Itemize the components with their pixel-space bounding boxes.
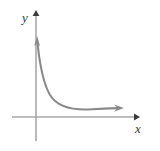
decay-curve-path (38, 44, 117, 110)
exponential-decay-figure: y x (0, 0, 160, 151)
y-axis-arrowhead-icon (33, 10, 40, 16)
y-axis-label: y (20, 10, 28, 25)
x-axis-arrowhead-icon (134, 114, 140, 121)
figure-canvas: y x (0, 0, 160, 151)
x-axis-label: x (134, 121, 141, 136)
